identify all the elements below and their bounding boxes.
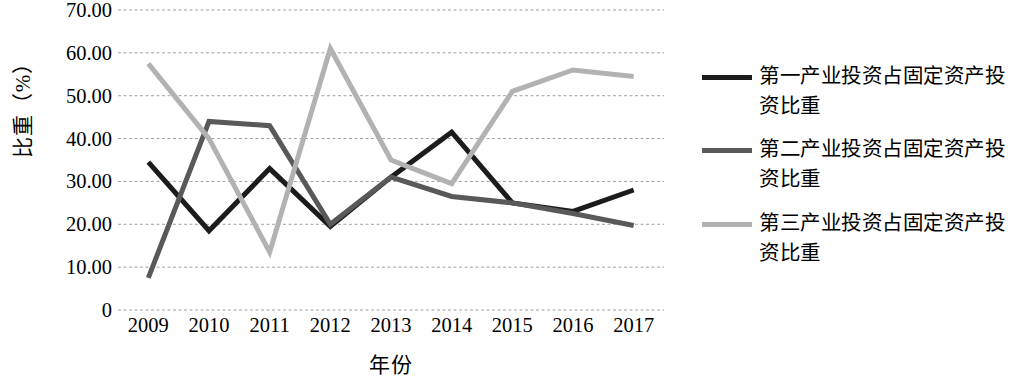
x-tick-label: 2015 [477, 312, 547, 339]
chart-legend: 第一产业投资占固定资产投资比重第二产业投资占固定资产投资比重第三产业投资占固定资… [702, 62, 1007, 282]
x-tick-label: 2012 [295, 312, 365, 339]
legend-item-label: 第三产业投资占固定资产投资比重 [759, 209, 1007, 268]
series-lines [148, 49, 633, 278]
legend-line-swatch-icon [702, 75, 752, 80]
y-tick-label: 70.00 [20, 0, 112, 21]
x-tick-label: 2017 [599, 312, 669, 339]
x-tick-label: 2011 [235, 312, 305, 339]
y-tick-label: 30.00 [20, 171, 112, 192]
y-tick-label: 50.00 [20, 86, 112, 107]
legend-item-label: 第一产业投资占固定资产投资比重 [759, 62, 1007, 121]
x-axis-title: 年份 [118, 348, 664, 378]
y-tick-label: 10.00 [20, 257, 112, 278]
series-line-2 [148, 121, 633, 277]
plot-svg [118, 10, 664, 310]
y-tick-label: 20.00 [20, 214, 112, 235]
y-tick-label: 0 [20, 300, 112, 321]
x-tick-label: 2013 [356, 312, 426, 339]
plot-area [118, 10, 664, 310]
x-tick-label: 2016 [538, 312, 608, 339]
legend-item-3[interactable]: 第三产业投资占固定资产投资比重 [702, 209, 1007, 268]
x-tick-label: 2014 [417, 312, 487, 339]
legend-item-1[interactable]: 第一产业投资占固定资产投资比重 [702, 62, 1007, 121]
y-tick-label: 60.00 [20, 43, 112, 64]
x-axis-tick-labels: 200920102011201220132014201520162017 [118, 312, 664, 342]
line-chart-figure: 比重（%） 70.0060.0050.0040.0030.0020.0010.0… [0, 0, 1011, 386]
y-axis-tick-labels: 70.0060.0050.0040.0030.0020.0010.000 [20, 0, 112, 386]
x-tick-label: 2009 [113, 312, 183, 339]
legend-line-swatch-icon [702, 222, 752, 227]
legend-item-label: 第二产业投资占固定资产投资比重 [759, 135, 1007, 194]
legend-line-swatch-icon [702, 148, 752, 153]
legend-item-2[interactable]: 第二产业投资占固定资产投资比重 [702, 135, 1007, 194]
y-tick-label: 40.00 [20, 129, 112, 150]
x-tick-label: 2010 [174, 312, 244, 339]
